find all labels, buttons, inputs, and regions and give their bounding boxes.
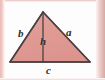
triangle-diagram	[0, 0, 105, 80]
label-side-a: a	[66, 27, 72, 38]
label-height-h: h	[40, 36, 46, 47]
label-side-b: b	[18, 28, 24, 39]
label-base-c: c	[46, 65, 51, 76]
geometry-figure: b a h c	[0, 0, 105, 80]
